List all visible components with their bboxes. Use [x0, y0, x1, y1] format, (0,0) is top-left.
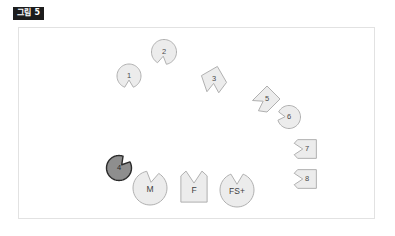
piece-4-outline	[107, 156, 132, 181]
piece-fsp-outline	[220, 174, 254, 207]
piece-3[interactable]: 3	[201, 66, 226, 92]
piece-8-outline	[294, 170, 316, 189]
piece-4[interactable]: 4	[107, 156, 132, 181]
piece-m-outline	[133, 171, 167, 205]
piece-2[interactable]: 2	[152, 40, 177, 65]
piece-f[interactable]: F	[181, 171, 207, 202]
piece-8[interactable]: 8	[294, 170, 316, 189]
piece-2-outline	[152, 40, 177, 65]
piece-1[interactable]: 1	[117, 64, 141, 87]
diagram-canvas: 12356784MFFS+	[18, 27, 375, 219]
figure-container: 그림 5 12356784MFFS+	[0, 0, 395, 236]
figure-number-badge: 그림 5	[13, 7, 44, 20]
piece-5[interactable]: 5	[253, 86, 280, 112]
piece-6[interactable]: 6	[278, 106, 301, 129]
piece-5-outline	[253, 86, 280, 112]
piece-m[interactable]: M	[133, 171, 167, 205]
piece-7[interactable]: 7	[294, 140, 316, 159]
piece-1-outline	[117, 64, 141, 87]
piece-7-outline	[294, 140, 316, 159]
shape-layer: 12356784MFFS+	[19, 28, 376, 220]
piece-fsp[interactable]: FS+	[220, 174, 254, 207]
piece-3-outline	[201, 66, 226, 92]
piece-f-outline	[181, 171, 207, 202]
piece-6-outline	[278, 106, 301, 129]
